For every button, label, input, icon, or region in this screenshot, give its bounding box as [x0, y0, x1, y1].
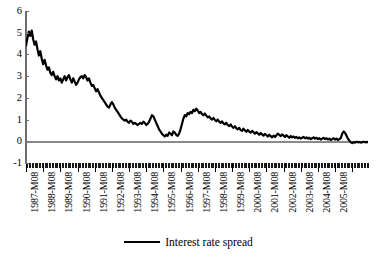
y-axis-tick-label: 5 [2, 28, 22, 39]
y-axis-tickmark [25, 141, 29, 142]
x-axis-tick-label: 1990-M08 [82, 172, 92, 213]
x-axis-labels: 1987-M081988-M081989-M081990-M081991-M08… [26, 172, 368, 228]
x-axis-tick-label: 2001-M08 [270, 172, 280, 213]
x-axis-tick-label: 1998-M08 [219, 172, 229, 213]
y-axis-tick-label: 3 [2, 71, 22, 82]
y-axis-tickmark [25, 98, 29, 99]
x-axis-tick-label: 2000-M08 [253, 172, 263, 213]
y-axis-labels: 6543210-1 [0, 0, 22, 180]
x-axis-tick-label: 1991-M08 [99, 172, 109, 213]
y-axis-tickmark [25, 163, 29, 164]
x-axis-tick-label: 2002-M08 [288, 172, 298, 213]
interest-rate-spread-line [26, 11, 368, 163]
y-axis-tickmark [25, 120, 29, 121]
x-axis-tick-label: 1999-M08 [236, 172, 246, 213]
x-axis-tick-label: 1993-M08 [133, 172, 143, 213]
y-axis-tickmark [25, 76, 29, 77]
x-axis-tick-label: 2004-M08 [322, 172, 332, 213]
y-axis-tickmark [25, 11, 29, 12]
y-axis-tick-label: 2 [2, 93, 22, 104]
y-axis-tick-label: 1 [2, 115, 22, 126]
y-axis-tickmark [25, 33, 29, 34]
legend-line-swatch [124, 241, 160, 243]
x-axis-tick-label: 1988-M08 [47, 172, 57, 213]
x-axis-tick-label: 1994-M08 [150, 172, 160, 213]
y-axis-tick-label: 6 [2, 6, 22, 17]
interest-rate-spread-chart: 6543210-1 1987-M081988-M081989-M081990-M… [0, 0, 377, 262]
x-axis-tick-label: 1989-M08 [64, 172, 74, 213]
y-axis-tickmark [25, 54, 29, 55]
x-axis-tick-label: 1996-M08 [185, 172, 195, 213]
x-axis-tick-label: 1995-M08 [167, 172, 177, 213]
plot-area [26, 11, 368, 163]
x-axis-tickmarks [26, 163, 368, 172]
x-axis-tick-label: 2005-M08 [339, 172, 349, 213]
y-axis-tick-label: 4 [2, 49, 22, 60]
x-axis-tick-label: 1992-M08 [116, 172, 126, 213]
chart-legend: Interest rate spread [0, 236, 377, 248]
x-axis-tick-label: 1997-M08 [202, 172, 212, 213]
x-axis-tick-label: 2003-M08 [305, 172, 315, 213]
legend-entry-label: Interest rate spread [165, 236, 252, 248]
y-axis-tick-label: -1 [2, 158, 22, 169]
x-axis-tick-label: 1987-M08 [30, 172, 40, 213]
y-axis-tick-label: 0 [2, 136, 22, 147]
x-axis-minor-tickmark [368, 163, 369, 168]
